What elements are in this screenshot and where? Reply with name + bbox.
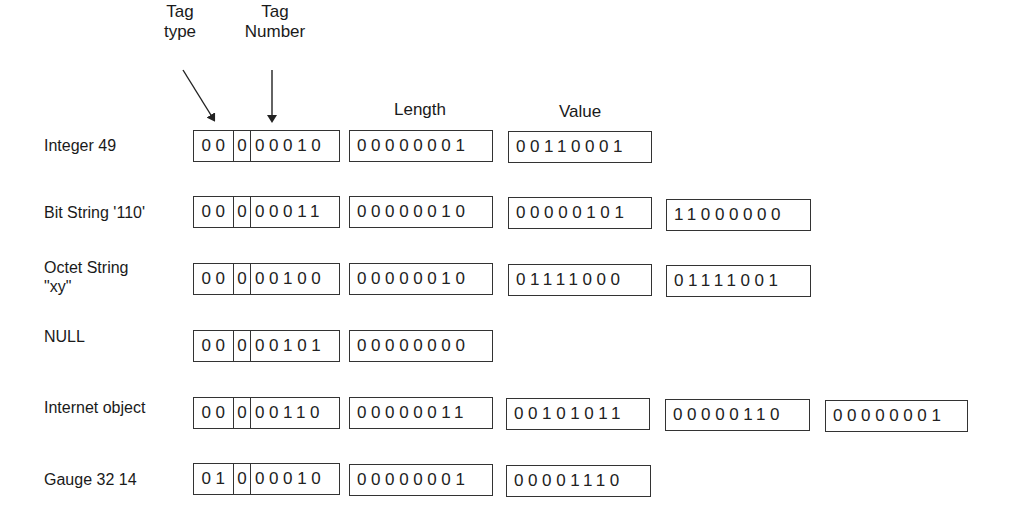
row-label-line: Gauge 32 14 <box>44 470 137 489</box>
tag-pc-bit: 0 <box>234 264 251 294</box>
length-bits: 00000010 <box>350 269 469 289</box>
value-bits: 00110001 <box>509 137 627 157</box>
value-box: 01111000 <box>508 264 652 296</box>
row-label-line: NULL <box>44 327 85 346</box>
length-box: 00000011 <box>349 397 493 429</box>
tag-box: 00 0 00110 <box>193 397 340 429</box>
tag-number-bits: 00010 <box>251 131 339 161</box>
length-box: 00000010 <box>349 196 493 228</box>
row-label: Integer 49 <box>44 136 116 155</box>
value-box: 00000110 <box>665 399 810 431</box>
value-bits: 11000000 <box>667 205 785 225</box>
row-label-line: Integer 49 <box>44 136 116 155</box>
length-bits: 00000010 <box>350 202 469 222</box>
row-label: Bit String '110' <box>44 203 145 222</box>
row-label: Internet object <box>44 398 145 417</box>
value-bits: 00000101 <box>509 203 628 223</box>
header-arrows <box>0 0 1012 530</box>
tag-class-bits: 00 <box>194 398 234 428</box>
tag-number-bits: 00101 <box>251 331 339 361</box>
row-label-line: Bit String '110' <box>44 203 145 222</box>
length-bits: 00000000 <box>350 336 469 356</box>
length-bits: 00000001 <box>350 136 469 156</box>
value-box: 00101011 <box>506 398 650 430</box>
row-label: NULL <box>44 327 85 346</box>
tag-pc-bit: 0 <box>234 464 251 494</box>
value-box: 00001110 <box>506 465 651 497</box>
tag-class-bits: 00 <box>194 131 234 161</box>
tag-box: 00 0 00101 <box>193 330 340 362</box>
tag-class-bits: 01 <box>194 464 234 494</box>
tag-pc-bit: 0 <box>234 398 251 428</box>
value-box: 00110001 <box>508 131 652 163</box>
value-box: 00000001 <box>825 400 968 432</box>
row-label: Octet String "xy" <box>44 258 128 296</box>
tag-class-bits: 00 <box>194 197 234 227</box>
value-bits: 01111001 <box>667 271 783 291</box>
row-label-line: Internet object <box>44 398 145 417</box>
value-bits: 01111000 <box>509 270 625 290</box>
length-box: 00000001 <box>349 130 493 162</box>
tag-pc-bit: 0 <box>234 131 251 161</box>
tag-class-bits: 00 <box>194 264 234 294</box>
length-box: 00000010 <box>349 263 493 295</box>
tag-box: 01 0 00010 <box>193 463 340 495</box>
length-box: 00000000 <box>349 330 493 362</box>
length-box: 00000001 <box>349 464 493 496</box>
tag-number-bits: 00010 <box>251 464 339 494</box>
tag-type-arrow <box>183 70 214 120</box>
tag-pc-bit: 0 <box>234 197 251 227</box>
tag-class-bits: 00 <box>194 331 234 361</box>
row-label: Gauge 32 14 <box>44 470 137 489</box>
tag-number-bits: 00100 <box>251 264 339 294</box>
row-label-line: "xy" <box>44 277 128 296</box>
value-box: 01111001 <box>666 265 811 297</box>
row-label-line: Octet String <box>44 258 128 277</box>
value-bits: 00001110 <box>507 471 624 491</box>
value-bits: 00000001 <box>826 406 945 426</box>
value-bits: 00000110 <box>666 405 784 425</box>
value-box: 00000101 <box>508 197 652 229</box>
tag-box: 00 0 00100 <box>193 263 340 295</box>
tag-box: 00 0 00010 <box>193 130 340 162</box>
tag-number-bits: 00011 <box>251 197 339 227</box>
tag-number-bits: 00110 <box>251 398 339 428</box>
length-bits: 00000011 <box>350 403 468 423</box>
tag-pc-bit: 0 <box>234 331 251 361</box>
value-bits: 00101011 <box>507 404 625 424</box>
tag-box: 00 0 00011 <box>193 196 340 228</box>
length-bits: 00000001 <box>350 470 469 490</box>
value-box: 11000000 <box>666 199 811 231</box>
